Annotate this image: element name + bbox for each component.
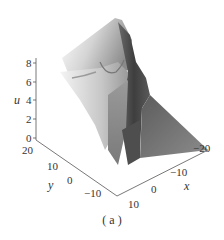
z-tick-4: 4 (26, 94, 32, 106)
z-tick-6: 6 (26, 76, 32, 88)
z-tick-8: 8 (26, 57, 32, 69)
x-tick-10: 10 (128, 198, 140, 210)
x-axis-label: x (183, 179, 190, 193)
y-axis: 20 10 0 −10 y (22, 140, 117, 199)
figure-caption: ( a ) (0, 213, 224, 228)
z-tick-2: 2 (26, 113, 32, 125)
y-tick-10: 10 (47, 160, 59, 172)
surface-plot: 8 6 4 2 0 u 20 10 0 −10 y 10 0 −10 −20 x (0, 0, 224, 240)
z-axis-label: u (14, 93, 20, 107)
y-tick-0: 0 (67, 174, 73, 186)
x-tick-neg10: −10 (170, 166, 188, 178)
y-axis-label: y (47, 178, 54, 192)
y-tick-neg10: −10 (84, 187, 102, 199)
z-axis: 8 6 4 2 0 u (14, 57, 36, 144)
x-tick-0: 0 (151, 183, 157, 195)
surface (60, 18, 208, 165)
z-tick-0: 0 (26, 132, 32, 144)
y-tick-20: 20 (22, 144, 34, 156)
x-tick-neg20: −20 (193, 142, 211, 154)
